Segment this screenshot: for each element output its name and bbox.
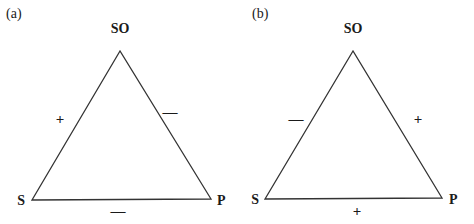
edge-sign-s-p: +	[353, 203, 362, 219]
edge-sign-so-p: —	[162, 104, 179, 120]
panel-label: (b)	[252, 6, 269, 22]
figure: (a) SO S P + — — (b) SO S P — + +	[0, 0, 474, 224]
panel-b: (b) SO S P — + +	[251, 6, 458, 219]
edge-sign-s-so: +	[56, 111, 65, 127]
panel-label: (a)	[6, 6, 22, 22]
vertex-s: S	[17, 193, 25, 208]
vertex-s: S	[251, 192, 259, 207]
vertex-p: P	[449, 192, 458, 207]
edge-sign-s-so: —	[288, 111, 305, 127]
edge-sign-s-p: —	[110, 203, 127, 219]
vertex-so: SO	[344, 21, 363, 36]
vertex-p: P	[217, 193, 226, 208]
panel-a: (a) SO S P + — —	[6, 6, 226, 219]
balance-triangles-diagram: (a) SO S P + — — (b) SO S P — + +	[0, 0, 474, 224]
edge-sign-so-p: +	[414, 111, 423, 127]
vertex-so: SO	[111, 21, 130, 36]
